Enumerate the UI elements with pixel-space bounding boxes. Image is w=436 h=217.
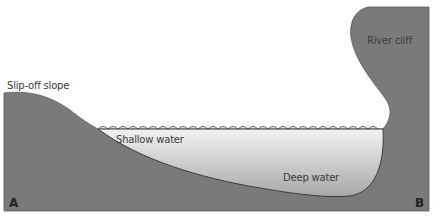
point-b-label: B <box>415 196 424 210</box>
cross-section-diagram <box>0 0 436 217</box>
deep-water-label: Deep water <box>283 172 339 183</box>
point-a-label: A <box>9 196 18 210</box>
shallow-water-label: Shallow water <box>116 134 184 145</box>
slip-off-slope-label: Slip-off slope <box>7 80 69 91</box>
river-cliff-label: River cliff <box>367 35 412 46</box>
